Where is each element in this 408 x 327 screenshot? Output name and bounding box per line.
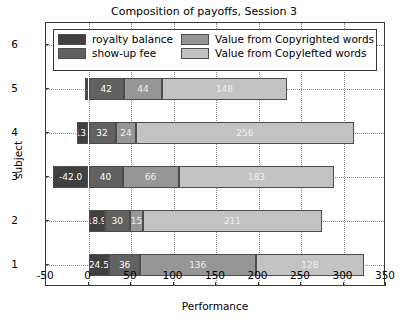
x-tick-label: 250 xyxy=(290,269,310,281)
y-tick-label: 6 xyxy=(0,38,18,50)
bar-value-label: 42 xyxy=(101,84,112,94)
y-tick-mark xyxy=(45,132,49,133)
y-tick-mark xyxy=(45,220,49,221)
bar-segment: 183 xyxy=(179,166,335,188)
legend-swatch xyxy=(58,34,86,45)
chart-legend: royalty balanceValue from Copyrighted wo… xyxy=(53,29,377,71)
x-tick-label: 200 xyxy=(247,269,267,281)
y-tick-mark xyxy=(45,88,49,89)
bar-value-label: 136 xyxy=(189,260,206,270)
legend-entry[interactable]: Value from Copyrighted words xyxy=(181,33,374,45)
y-axis-label: subject xyxy=(12,120,24,200)
legend-swatch xyxy=(181,34,209,45)
legend-label: royalty balance xyxy=(92,33,173,45)
x-tick-label: -50 xyxy=(36,269,53,281)
x-tick-mark xyxy=(385,282,386,286)
bar-segment: 42 xyxy=(89,78,125,100)
bar-value-label: 30 xyxy=(112,216,123,226)
x-tick-mark xyxy=(258,282,259,286)
chart-figure: Composition of payoffs, Session 3 24.536… xyxy=(0,0,408,327)
y-tick-mark xyxy=(45,264,49,265)
x-tick-mark xyxy=(215,282,216,286)
x-tick-label: 150 xyxy=(205,269,225,281)
bar-segment: 44 xyxy=(124,78,161,100)
bar-segment: 148 xyxy=(162,78,288,100)
bar-value-label: 18.9 xyxy=(89,216,105,226)
bar-value-label: 256 xyxy=(236,128,253,138)
legend-entry[interactable]: royalty balance xyxy=(58,33,173,45)
y-tick-label: 5 xyxy=(0,82,18,94)
x-tick-mark xyxy=(300,282,301,286)
x-tick-label: 100 xyxy=(162,269,182,281)
bar-segment: 30 xyxy=(105,210,131,232)
bar-segment: 24.5 xyxy=(89,254,110,276)
bar-segment: 18.9 xyxy=(89,210,105,232)
bar-segment: 24 xyxy=(116,122,136,144)
bar-segment: 66 xyxy=(123,166,179,188)
legend-swatch xyxy=(58,48,86,59)
x-axis-label: Performance xyxy=(45,300,385,312)
x-tick-mark xyxy=(173,282,174,286)
bar-segment: 40 xyxy=(89,166,123,188)
legend-label: show-up fee xyxy=(92,47,156,59)
bar-value-label: 32 xyxy=(96,128,107,138)
bar-value-label: 44 xyxy=(137,84,148,94)
bar-segment: 256 xyxy=(136,122,354,144)
bar-segment: 211 xyxy=(143,210,322,232)
bar-value-label: 15 xyxy=(131,216,142,226)
legend-label: Value from Copylefted words xyxy=(215,47,366,59)
chart-title: Composition of payoffs, Session 3 xyxy=(0,5,408,18)
bar-value-label: 148 xyxy=(216,84,233,94)
x-tick-mark xyxy=(343,282,344,286)
bar-value-label: 183 xyxy=(248,172,265,182)
x-tick-mark xyxy=(45,282,46,286)
bar-value-label: -13.3 xyxy=(77,128,88,138)
y-tick-mark xyxy=(45,44,49,45)
bar-segment: -13.3 xyxy=(77,122,88,144)
bar-value-label: 66 xyxy=(145,172,156,182)
bar-value-label: 24.5 xyxy=(89,260,109,270)
legend-swatch xyxy=(181,48,209,59)
y-tick-label: 1 xyxy=(0,258,18,270)
bar-segment: 15 xyxy=(130,210,143,232)
bar-value-label: 40 xyxy=(100,172,111,182)
bar-segment: -42.0 xyxy=(53,166,89,188)
x-tick-label: 0 xyxy=(84,269,91,281)
bar-value-label: 211 xyxy=(224,216,241,226)
bar-value-label: 24 xyxy=(120,128,131,138)
x-tick-label: 50 xyxy=(123,269,136,281)
x-tick-mark xyxy=(88,282,89,286)
x-tick-label: 300 xyxy=(332,269,352,281)
bar-segment: 32 xyxy=(89,122,116,144)
bar-value-label: -42.0 xyxy=(59,172,82,182)
bar-segment: 136 xyxy=(140,254,256,276)
y-tick-label: 2 xyxy=(0,214,18,226)
x-tick-mark xyxy=(130,282,131,286)
x-tick-label: 350 xyxy=(375,269,395,281)
legend-label: Value from Copyrighted words xyxy=(215,33,374,45)
legend-entry[interactable]: show-up fee xyxy=(58,47,173,59)
legend-entry[interactable]: Value from Copylefted words xyxy=(181,47,374,59)
y-tick-mark xyxy=(45,176,49,177)
